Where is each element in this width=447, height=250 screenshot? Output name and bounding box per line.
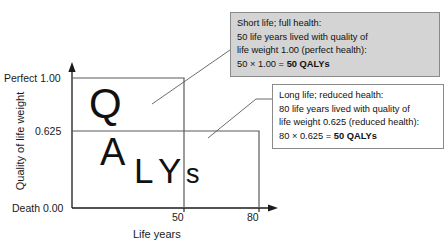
callout-long-line-1: Long life; reduced health: xyxy=(279,89,437,103)
callout-long-line-3: life weight 0.625 (reduced health): xyxy=(279,116,437,130)
y-tick-label-0625: 0.625 xyxy=(35,126,61,137)
callout-short-equation: 50 × 1.00 = xyxy=(237,59,287,69)
callout-short-result: 50 QALYs xyxy=(287,59,330,69)
callout-short-line-1: Short life; full health: xyxy=(237,17,433,31)
y-tick-label-death: Death 0.00 xyxy=(12,203,63,214)
qaly-letter-l: L xyxy=(134,153,153,188)
callout-long-line-4: 80 × 0.625 = 50 QALYs xyxy=(279,130,437,144)
qaly-letter-a: A xyxy=(100,133,125,171)
x-tick-label-80: 80 xyxy=(247,212,259,223)
callout-short-line-2: 50 life years lived with quality of xyxy=(237,31,433,45)
y-axis xyxy=(68,62,75,208)
qaly-letter-s: s xyxy=(186,161,200,188)
callout-long-line-2: 80 life years lived with quality of xyxy=(279,103,437,117)
y-axis-title: Quality of life weight xyxy=(14,81,26,201)
y-tick-label-perfect: Perfect 1.00 xyxy=(4,73,61,84)
qaly-letter-q: Q xyxy=(89,83,122,125)
leader-line-long-life xyxy=(208,99,272,138)
callout-short-life: Short life; full health: 50 life years l… xyxy=(230,12,440,77)
callout-short-line-3: life weight 1.00 (perfect health): xyxy=(237,44,433,58)
qaly-letter-y: Y xyxy=(158,153,181,188)
callout-long-equation: 80 × 0.625 = xyxy=(279,131,334,141)
x-axis-title: Life years xyxy=(133,228,181,240)
qaly-figure: Perfect 1.00 0.625 Death 0.00 50 80 Life… xyxy=(0,0,447,250)
callout-long-result: 50 QALYs xyxy=(334,131,377,141)
x-tick-label-50: 50 xyxy=(172,212,184,223)
callout-short-line-4: 50 × 1.00 = 50 QALYs xyxy=(237,58,433,72)
callout-long-life: Long life; reduced health: 80 life years… xyxy=(272,84,444,149)
leader-line-short-life xyxy=(152,50,230,104)
